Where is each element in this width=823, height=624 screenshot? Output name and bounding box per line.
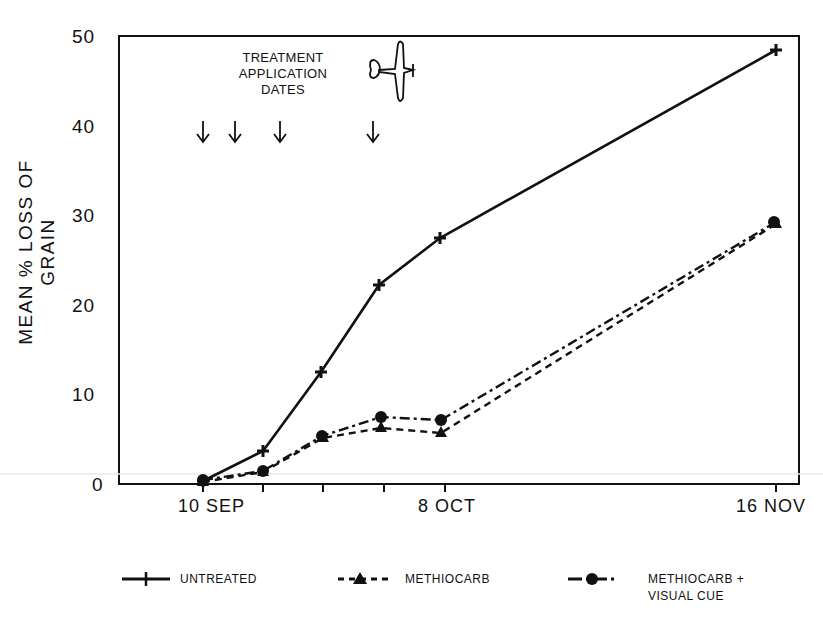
legend-label-visual-cue: METHIOCARB + VISUAL CUE <box>648 571 744 605</box>
airplane-icon <box>370 42 413 102</box>
arrow-down-icon <box>197 121 209 142</box>
legend-visual-cue-line-2: VISUAL CUE <box>648 588 744 605</box>
arrow-down-icon <box>367 121 379 142</box>
legend-label-untreated: UNTREATED <box>180 571 257 588</box>
plot-frame <box>119 36 799 484</box>
arrow-down-icon <box>229 121 241 142</box>
legend-visual-cue-line-1: METHIOCARB + <box>648 571 744 588</box>
legend-symbol-untreated <box>122 572 170 586</box>
series-untreated <box>197 44 782 487</box>
series-methiocarb <box>197 217 782 486</box>
series-methiocarb-visual-cue <box>197 216 780 486</box>
arrow-down-icon <box>274 121 286 142</box>
x-ticks <box>203 484 776 492</box>
chart-plot <box>0 0 823 624</box>
legend-symbol-methiocarb <box>338 572 390 584</box>
treatment-arrow-icons <box>197 121 379 142</box>
legend-symbol-visual-cue <box>568 573 618 585</box>
legend-label-methiocarb: METHIOCARB <box>405 571 490 588</box>
